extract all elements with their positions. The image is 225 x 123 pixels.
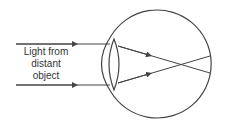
label-line-2: distant <box>16 58 76 70</box>
eyeball <box>111 10 211 118</box>
label-line-1: Light from <box>16 46 76 58</box>
light-source-label: Light from distant object <box>16 46 76 82</box>
lens <box>109 39 119 90</box>
label-line-3: object <box>16 70 76 82</box>
